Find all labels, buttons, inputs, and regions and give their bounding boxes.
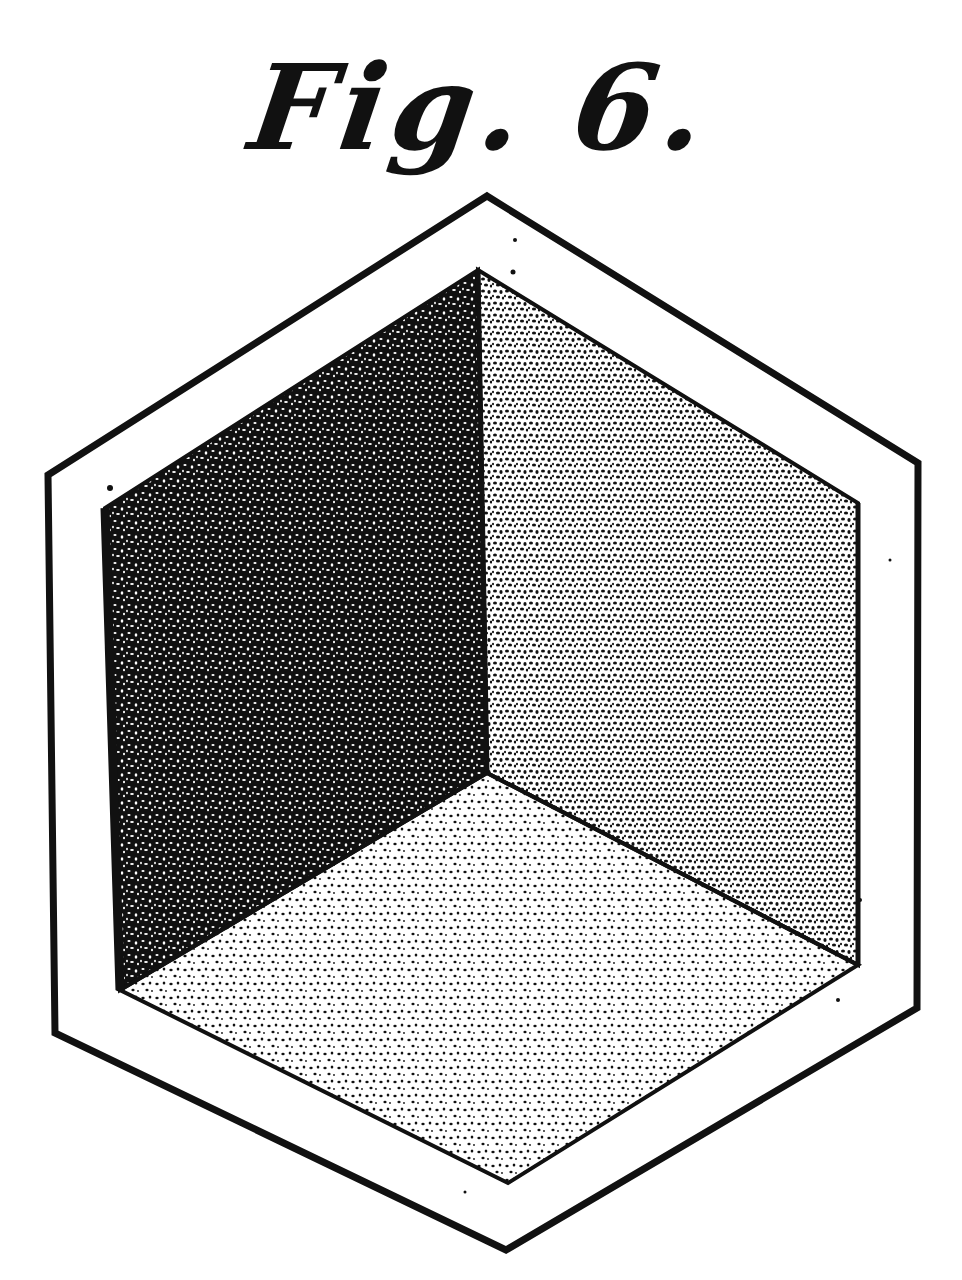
- cube-corner-diagram: [0, 0, 962, 1280]
